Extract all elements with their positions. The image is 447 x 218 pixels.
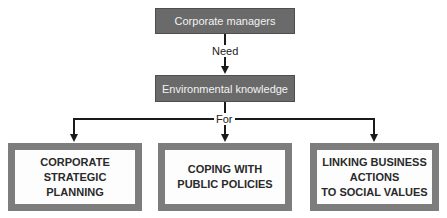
- node-label: Corporate managers: [175, 15, 276, 27]
- arrow-down-icon: [221, 66, 229, 74]
- outcome-coping-with-public-policies: COPING WITH PUBLIC POLICIES: [158, 143, 292, 211]
- outcome-linking-business-actions: LINKING BUSINESS ACTIONS TO SOCIAL VALUE…: [310, 143, 439, 211]
- connector-branch-left: [73, 118, 75, 134]
- node-corporate-managers: Corporate managers: [155, 8, 295, 34]
- outcome-corporate-strategic-planning: CORPORATE STRATEGIC PLANNING: [8, 143, 142, 211]
- outcome-label: COPING WITH PUBLIC POLICIES: [177, 162, 272, 192]
- edge-label-for: For: [214, 113, 235, 125]
- arrow-down-icon: [370, 134, 378, 142]
- outcome-label: CORPORATE STRATEGIC PLANNING: [40, 155, 109, 200]
- node-label: Environmental knowledge: [162, 83, 288, 95]
- node-environmental-knowledge: Environmental knowledge: [155, 75, 295, 102]
- edge-label-need: Need: [210, 45, 240, 57]
- connector-branch-right: [373, 118, 375, 134]
- arrow-down-icon: [221, 134, 229, 142]
- outcome-label: LINKING BUSINESS ACTIONS TO SOCIAL VALUE…: [321, 155, 427, 200]
- arrow-down-icon: [70, 134, 78, 142]
